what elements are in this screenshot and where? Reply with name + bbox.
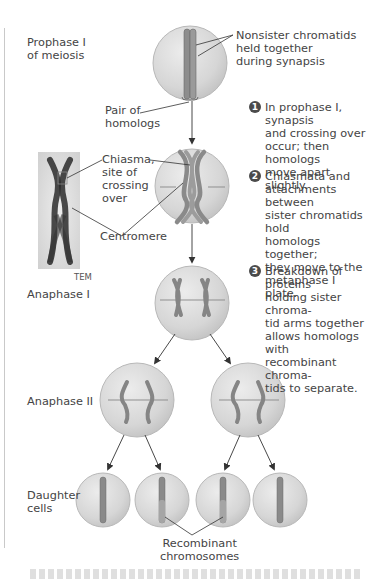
stage-label-daughter-cells: Daughter cells bbox=[27, 489, 80, 515]
stage-label-anaphase-ii: Anaphase II bbox=[27, 395, 93, 408]
tem-micrograph bbox=[38, 152, 80, 269]
step-number-badge: 1 bbox=[249, 101, 261, 113]
step-3: 3 Breakdown of proteins holding sister c… bbox=[249, 265, 371, 395]
anaphase-ii-cell-left bbox=[100, 363, 174, 437]
label-chiasma: Chiasma, site of crossing over bbox=[102, 153, 155, 205]
label-nonsister-chromatids: Nonsister chromatids held together durin… bbox=[236, 29, 356, 68]
prophase-cell bbox=[153, 26, 227, 100]
daughter-cell-2 bbox=[135, 473, 189, 527]
step-number-badge: 2 bbox=[249, 170, 261, 182]
label-centromere: Centromere bbox=[100, 230, 167, 243]
anaphase-i-cell bbox=[155, 266, 229, 340]
step-number-badge: 3 bbox=[249, 265, 261, 277]
stage-label-anaphase-i: Anaphase I bbox=[27, 288, 90, 301]
stage-label-prophase: Prophase I of meiosis bbox=[27, 36, 86, 62]
daughter-cell-4 bbox=[253, 473, 307, 527]
label-tem: TEM bbox=[74, 271, 92, 284]
chiasma-cell bbox=[155, 149, 229, 223]
step-text: Breakdown of proteins holding sister chr… bbox=[249, 265, 371, 395]
daughter-cell-3 bbox=[196, 473, 250, 527]
daughter-cell-1 bbox=[76, 473, 130, 527]
label-pair-of-homologs: Pair of homologs bbox=[105, 104, 160, 130]
truncated-caption bbox=[30, 569, 360, 579]
label-recombinant-chromosomes: Recombinant chromosomes bbox=[160, 537, 239, 563]
